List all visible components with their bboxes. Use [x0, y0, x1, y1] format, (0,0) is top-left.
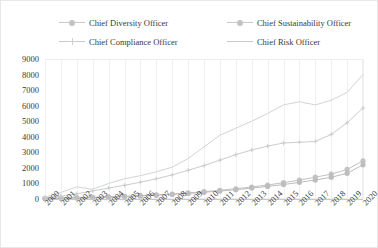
series-point-marker — [297, 180, 302, 185]
series-point-marker — [281, 182, 286, 187]
y-tick-label: 3000 — [22, 148, 39, 157]
y-axis-tick-labels: 9000800070006000500040003000200010000 — [1, 59, 43, 199]
legend-row-2: Chief Compliance Officer Chief Risk Offi… — [39, 32, 359, 51]
legend-label: Chief Risk Officer — [253, 37, 320, 47]
legend-label: Chief Sustainability Officer — [253, 18, 351, 28]
chart-figure: Chief Diversity Officer Chief Sustainabi… — [0, 0, 378, 248]
legend-item-chief-diversity-officer[interactable]: Chief Diversity Officer — [39, 18, 227, 28]
series-line-2 — [45, 108, 363, 198]
series-point-marker — [202, 163, 206, 167]
series-point-marker — [154, 177, 158, 181]
y-tick-label: 5000 — [22, 117, 39, 126]
y-tick-label: 8000 — [22, 70, 39, 79]
chart-legend: Chief Diversity Officer Chief Sustainabi… — [39, 13, 359, 53]
series-point-marker — [265, 184, 270, 189]
series-point-marker — [265, 144, 269, 148]
legend-item-chief-compliance-officer[interactable]: Chief Compliance Officer — [39, 37, 227, 47]
y-tick-label: 9000 — [22, 55, 39, 64]
y-tick-label: 1000 — [22, 179, 39, 188]
legend-marker-line-icon — [227, 37, 253, 47]
plot-area — [45, 59, 363, 199]
x-axis-tick-labels: 2000200120022003200420052006200720082009… — [45, 201, 363, 245]
legend-label: Chief Diversity Officer — [85, 18, 168, 28]
legend-marker-cross-icon — [59, 37, 85, 47]
y-tick-label: 4000 — [22, 132, 39, 141]
series-point-marker — [218, 158, 222, 162]
series-point-marker — [106, 186, 110, 190]
legend-item-chief-risk-officer[interactable]: Chief Risk Officer — [227, 37, 359, 47]
series-point-marker — [281, 141, 285, 145]
series-point-marker — [360, 162, 365, 167]
series-point-marker — [233, 187, 238, 192]
series-point-marker — [250, 148, 254, 152]
legend-label: Chief Compliance Officer — [85, 37, 178, 47]
y-tick-label: 6000 — [22, 101, 39, 110]
series-point-marker — [345, 171, 350, 176]
series-point-marker — [186, 168, 190, 172]
series-point-marker — [234, 152, 238, 156]
y-tick-label: 0 — [35, 195, 39, 204]
series-point-marker — [313, 177, 318, 182]
series-point-marker — [138, 180, 142, 184]
legend-row-1: Chief Diversity Officer Chief Sustainabi… — [39, 13, 359, 32]
y-tick-label: 2000 — [22, 163, 39, 172]
legend-marker-circle-icon — [59, 18, 85, 28]
series-point-marker — [170, 173, 174, 177]
y-tick-label: 7000 — [22, 86, 39, 95]
legend-item-chief-sustainability-officer[interactable]: Chief Sustainability Officer — [227, 18, 359, 28]
series-point-marker — [297, 140, 301, 144]
series-point-marker — [313, 139, 317, 143]
series-point-marker — [329, 175, 334, 180]
legend-marker-circle-icon — [227, 18, 253, 28]
series-point-marker — [122, 183, 126, 187]
series-lines — [45, 59, 363, 199]
series-point-marker — [249, 186, 254, 191]
